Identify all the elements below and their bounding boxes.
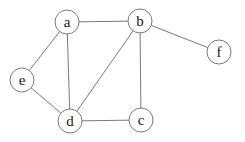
- node-f: f: [207, 40, 231, 64]
- nodes-layer: abfedc: [10, 9, 231, 133]
- node-a: a: [55, 10, 79, 34]
- node-label: c: [138, 112, 145, 128]
- edge-a-d: [67, 34, 69, 109]
- node-label: d: [66, 113, 74, 129]
- node-d: d: [58, 109, 82, 133]
- node-b: b: [128, 9, 152, 33]
- edges-layer: [29, 21, 207, 121]
- edge-a-e: [29, 31, 59, 70]
- edge-b-f: [151, 25, 208, 47]
- edge-d-c: [82, 120, 129, 121]
- edge-e-d: [31, 88, 61, 113]
- edge-b-d: [77, 31, 133, 111]
- node-c: c: [129, 108, 153, 132]
- edge-b-c: [140, 33, 141, 108]
- edge-a-b: [79, 21, 128, 22]
- graph-diagram: abfedc: [0, 0, 245, 142]
- node-label: a: [64, 14, 71, 30]
- node-label: f: [217, 44, 222, 60]
- node-e: e: [10, 68, 34, 92]
- node-label: b: [136, 13, 144, 29]
- node-label: e: [19, 72, 26, 88]
